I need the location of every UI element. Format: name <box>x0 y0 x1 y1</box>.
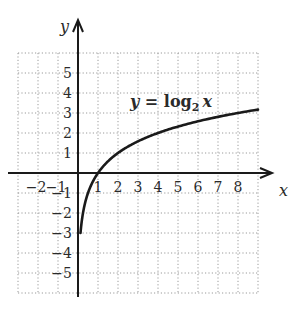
log2-curve <box>81 110 259 233</box>
x-tick-label: 3 <box>134 179 143 195</box>
y-tick-label: −4 <box>51 245 72 261</box>
x-tick-label: 6 <box>194 179 203 195</box>
y-tick-label: −2 <box>51 205 72 221</box>
log2-graph: −2−11234567854321−1−2−3−4−5 y x y = log2… <box>0 0 305 318</box>
x-tick-label: 1 <box>94 179 103 195</box>
x-tick-label: −2 <box>26 179 47 195</box>
y-tick-label: −1 <box>51 185 72 201</box>
x-tick-label: 2 <box>114 179 123 195</box>
x-tick-label: 8 <box>234 179 243 195</box>
y-tick-label: 1 <box>63 145 72 161</box>
y-axis-label: y <box>59 17 70 36</box>
y-tick-label: 4 <box>63 85 72 101</box>
y-tick-label: −3 <box>51 225 72 241</box>
x-tick-label: 7 <box>214 179 223 195</box>
y-tick-label: 3 <box>63 105 72 121</box>
axes <box>8 20 272 297</box>
eq-arg: x <box>201 92 212 111</box>
x-tick-label: 5 <box>174 179 183 195</box>
x-axis-label: x <box>279 181 288 200</box>
x-tick-label: 4 <box>154 179 163 195</box>
y-tick-label: 2 <box>63 125 72 141</box>
equation-label: y = log2x <box>129 92 212 114</box>
y-tick-label: 5 <box>63 65 72 81</box>
eq-base: 2 <box>192 101 200 114</box>
y-tick-label: −5 <box>51 265 72 281</box>
eq-equals: = <box>139 92 164 111</box>
eq-fn: log <box>164 92 192 111</box>
